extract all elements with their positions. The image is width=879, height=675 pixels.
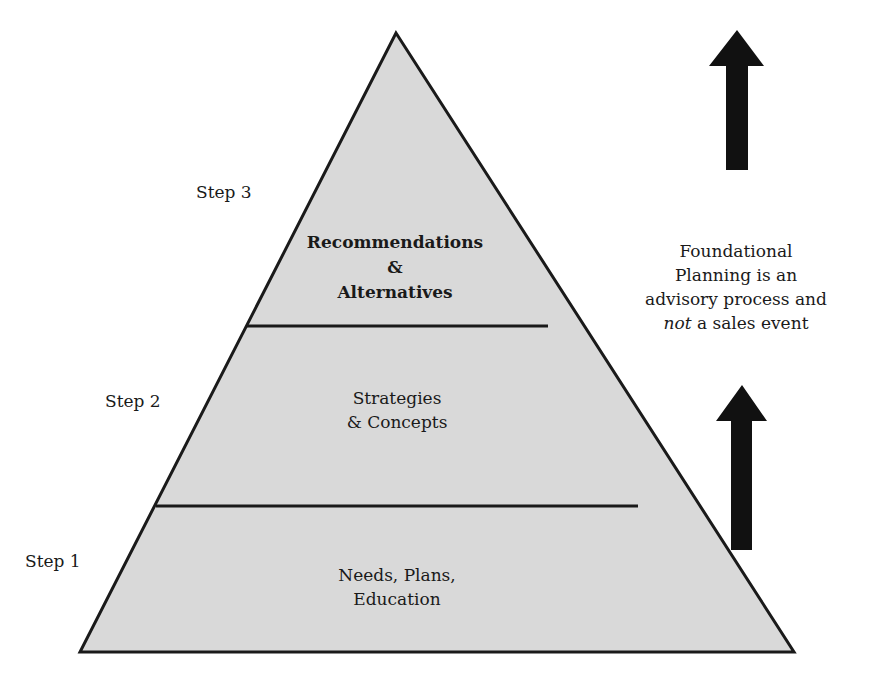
step-label-3: Step 3 (196, 182, 252, 202)
step-label-2: Step 2 (105, 391, 161, 411)
side-note: Foundational Planning is an advisory pro… (616, 239, 856, 335)
tier-3-text: Recommendations & Alternatives (270, 230, 520, 305)
pyramid-shape (80, 33, 794, 652)
step-label-1: Step 1 (25, 551, 81, 571)
up-arrow-icon (709, 30, 764, 170)
emphasis-not: not (664, 313, 692, 333)
up-arrow-icon (716, 385, 767, 550)
tier-2-text: Strategies & Concepts (297, 386, 497, 434)
tier-1-text: Needs, Plans, Education (297, 563, 497, 611)
